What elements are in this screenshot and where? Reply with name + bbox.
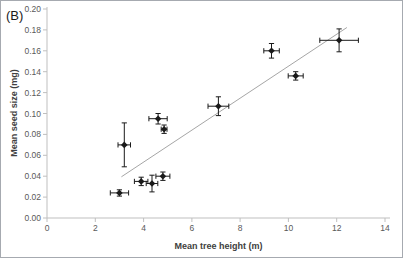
y-tick-label: 0.12 <box>24 88 41 98</box>
data-point-marker <box>160 173 167 180</box>
y-tick-label: 0.18 <box>24 25 41 35</box>
y-tick-label: 0.16 <box>24 46 41 56</box>
y-tick-label: 0.04 <box>24 171 41 181</box>
y-tick-label: 0.08 <box>24 129 41 139</box>
y-tick-label: 0.02 <box>24 192 41 202</box>
chart-svg: 024681012140.000.020.040.060.080.100.120… <box>1 1 403 258</box>
data-point-marker <box>268 48 275 55</box>
data-point-marker <box>155 115 162 122</box>
y-axis-title: Mean seed size (mg) <box>9 69 19 157</box>
y-tick-label: 0.00 <box>24 213 41 223</box>
x-tick-label: 12 <box>332 223 342 233</box>
x-tick-label: 4 <box>141 223 146 233</box>
x-tick-label: 0 <box>45 223 50 233</box>
y-tick-label: 0.20 <box>24 4 41 14</box>
data-point-marker <box>116 190 123 197</box>
data-point-marker <box>149 180 156 187</box>
data-point-marker <box>121 142 128 149</box>
x-tick-label: 6 <box>190 223 195 233</box>
y-tick-label: 0.14 <box>24 67 41 77</box>
data-point-marker <box>161 126 168 133</box>
trend-line <box>121 28 347 177</box>
data-point-marker <box>215 103 222 110</box>
y-tick-label: 0.10 <box>24 109 41 119</box>
data-point-marker <box>292 73 299 80</box>
scatter-plot-figure: 024681012140.000.020.040.060.080.100.120… <box>0 0 403 258</box>
y-tick-label: 0.06 <box>24 150 41 160</box>
x-tick-label: 2 <box>93 223 98 233</box>
x-tick-label: 8 <box>238 223 243 233</box>
x-tick-label: 10 <box>284 223 294 233</box>
x-tick-label: 14 <box>380 223 390 233</box>
x-axis-title: Mean tree height (m) <box>47 241 390 251</box>
panel-label: (B) <box>6 8 23 23</box>
data-point-marker <box>138 178 145 185</box>
data-point-marker <box>336 37 343 44</box>
